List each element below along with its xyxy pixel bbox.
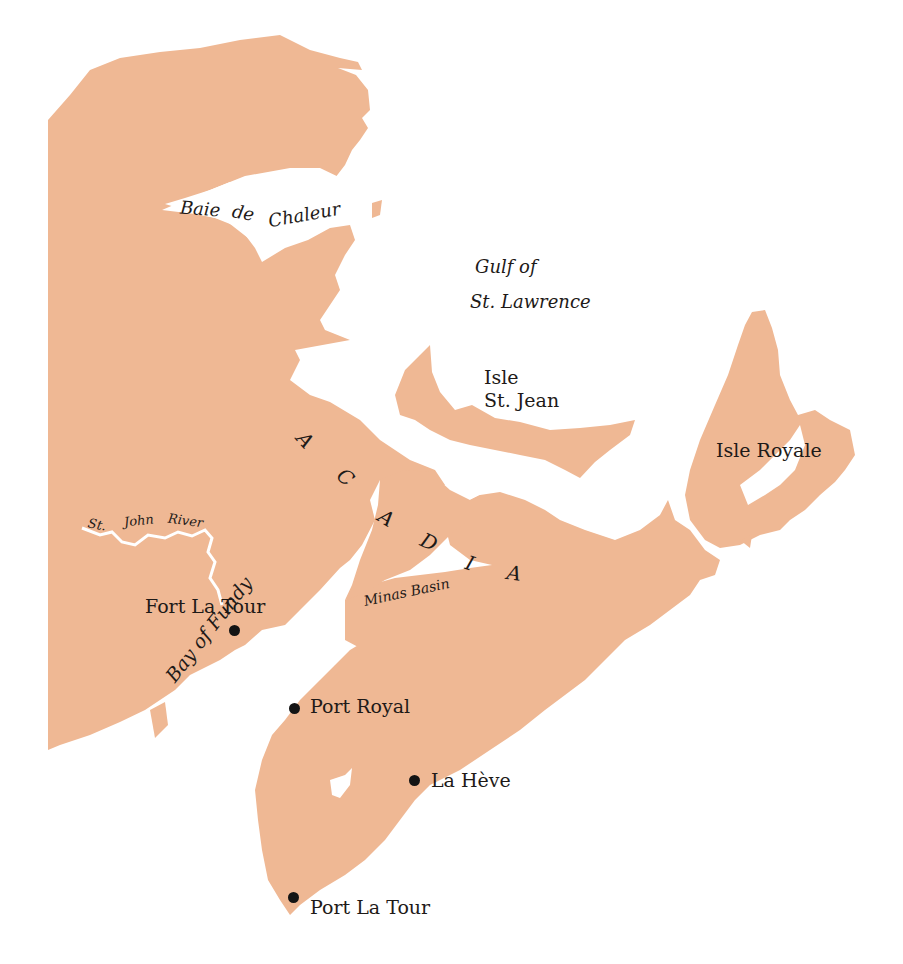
settlement-marker-port-royal (289, 703, 300, 714)
settlement-marker-fort-la-tour (229, 625, 240, 636)
st-john-river-label: St. John River (88, 518, 204, 531)
settlement-marker-la-heve (409, 775, 420, 786)
label-word: St. (87, 517, 107, 533)
label-word: John (124, 512, 155, 528)
settlement-label-fort-la-tour: Fort La Tour (145, 597, 265, 616)
baie-de-chaleur-label: Baie de Chaleur (180, 200, 341, 218)
small-island (150, 702, 168, 738)
small-island (372, 200, 382, 218)
label-word: River (168, 512, 205, 530)
settlement-label-port-royal: Port Royal (310, 697, 410, 716)
label-line: St. Jean (484, 391, 559, 410)
gulf-of-st-lawrence-label: Gulf of St. Lawrence (470, 258, 591, 311)
label-word: Baie (179, 199, 221, 220)
label-word: de (231, 202, 256, 224)
isle-st-jean-landmass (395, 345, 635, 478)
label-line: St. Lawrence (470, 293, 591, 311)
isle-royale-landmass (685, 310, 855, 548)
settlement-marker-port-la-tour (288, 892, 299, 903)
label-line: Isle (484, 368, 559, 387)
isle-st-jean-label: Isle St. Jean (484, 368, 559, 410)
map-geography (0, 0, 903, 964)
acadia-map: Baie de Chaleur Gulf of St. Lawrence Bay… (0, 0, 903, 964)
label-line: Gulf of (475, 258, 591, 276)
isle-royale-label: Isle Royale (716, 441, 822, 460)
acadia-letter: A (506, 562, 523, 584)
settlement-label-port-la-tour: Port La Tour (310, 898, 430, 917)
settlement-label-la-heve: La Hève (431, 771, 511, 790)
